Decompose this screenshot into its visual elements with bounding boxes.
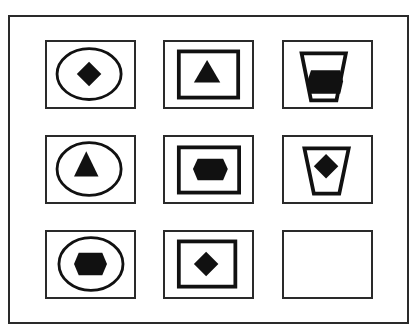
ellipse-diamond-figure	[47, 42, 134, 107]
cell-r3-c2	[163, 230, 254, 299]
rectangle-hexagon-figure	[165, 137, 252, 202]
cell-r3-c3-blank-answer-slot[interactable]	[282, 230, 373, 299]
cell-r1-c1	[45, 40, 136, 109]
hexagon-icon	[307, 70, 343, 94]
hexagon-icon	[193, 159, 228, 181]
diamond-icon	[77, 62, 101, 86]
triangle-icon	[194, 60, 220, 83]
cell-r2-c3	[282, 135, 373, 204]
diamond-icon	[194, 252, 218, 276]
hexagon-icon	[74, 253, 107, 276]
diamond-icon	[314, 154, 338, 178]
cell-r2-c1	[45, 135, 136, 204]
cell-r2-c2	[163, 135, 254, 204]
rectangle-diamond-figure	[165, 232, 252, 297]
triangle-icon	[74, 151, 98, 176]
ellipse-hexagon-figure	[47, 232, 134, 297]
rectangle-triangle-figure	[165, 42, 252, 107]
cell-r1-c2	[163, 40, 254, 109]
cup-hexagon-figure	[284, 42, 371, 107]
cup-diamond-figure	[284, 137, 371, 202]
cell-r1-c3	[282, 40, 373, 109]
cell-r3-c1	[45, 230, 136, 299]
ellipse-triangle-figure	[47, 137, 134, 202]
